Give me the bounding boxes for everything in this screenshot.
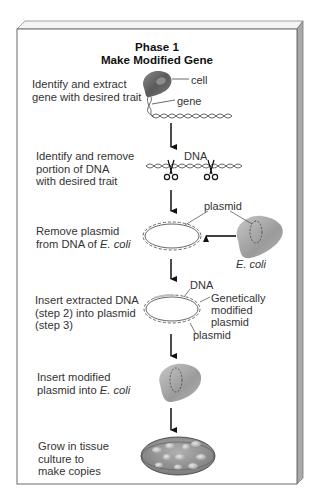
step-2-text: Identify and remove portion of DNA with … xyxy=(36,150,134,188)
culture-dish-icon xyxy=(141,437,215,475)
label-plasmid: plasmid xyxy=(204,200,242,212)
step-3-text-ecoli: E. coli xyxy=(100,238,130,250)
label-cell: cell xyxy=(191,74,208,86)
label-gene: gene xyxy=(177,95,201,107)
label-plasmid-step4: plasmid xyxy=(193,329,231,341)
label-genetically-modified-plasmid: Genetically modified plasmid xyxy=(211,292,265,328)
step-3-text: Remove plasmid from DNA of E. coli xyxy=(36,225,131,250)
label-dna: DNA xyxy=(184,150,207,162)
label-ecoli: E. coli xyxy=(236,258,266,270)
step-4-text: Insert extracted DNA (step 2) into plasm… xyxy=(35,294,139,332)
panel-title-phase: Phase 1 xyxy=(17,40,297,53)
step-1-text: Identify and extract gene with desired t… xyxy=(32,78,141,103)
step-5-text: Insert modified plasmid into E. coli xyxy=(37,371,130,396)
step-6-text: Grow in tissue culture to make copies xyxy=(38,440,109,478)
diagram-panel: Phase 1 Make Modified Gene Identify and … xyxy=(0,0,315,496)
label-dna-inserted: DNA xyxy=(190,279,213,291)
panel-title-main: Make Modified Gene xyxy=(17,53,297,66)
step-5-text-ecoli: E. coli xyxy=(100,384,130,396)
